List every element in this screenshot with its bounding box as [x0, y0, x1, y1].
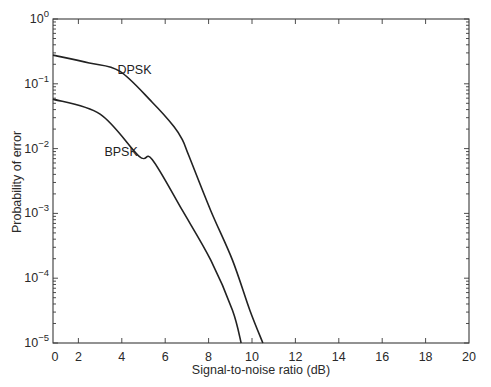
x-tick-label: 18	[419, 350, 433, 364]
x-tick-label: 10	[245, 350, 259, 364]
x-tick-label: 16	[375, 350, 389, 364]
curve-dpsk	[53, 55, 263, 343]
y-tick-label: 100	[30, 8, 49, 26]
curves	[53, 55, 263, 343]
series-label-dpsk: DPSK	[117, 63, 152, 77]
x-tick-label: 6	[162, 350, 169, 364]
curve-bpsk	[53, 99, 241, 343]
x-axis-ticks: 02468101214161820	[52, 19, 476, 364]
error-probability-chart: 02468101214161820 10010−110−210−310−410−…	[0, 0, 491, 387]
x-axis-title: Signal-to-noise ratio (dB)	[192, 363, 330, 377]
y-axis-title: Probability of error	[10, 131, 24, 233]
x-tick-label: 0	[52, 350, 59, 364]
x-tick-label: 4	[118, 350, 125, 364]
y-tick-label: 10−2	[24, 138, 49, 156]
x-tick-label: 8	[205, 350, 212, 364]
x-tick-label: 14	[332, 350, 346, 364]
y-tick-label: 10−4	[24, 267, 49, 285]
series-label-bpsk: BPSK	[104, 145, 138, 159]
y-tick-label: 10−1	[24, 73, 49, 91]
y-tick-label: 10−5	[24, 332, 49, 350]
plot-frame	[53, 19, 469, 343]
x-tick-label: 2	[75, 350, 82, 364]
x-tick-label: 12	[288, 350, 302, 364]
x-tick-label: 20	[462, 350, 476, 364]
y-tick-label: 10−3	[24, 202, 49, 220]
